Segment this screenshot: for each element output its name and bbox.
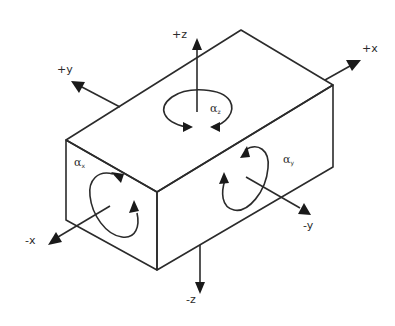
rotation-alpha-x (90, 172, 139, 237)
axis-pos-x (325, 60, 361, 80)
axis-neg-y (246, 177, 311, 215)
arrowhead-icon (298, 203, 311, 215)
arrowhead-icon (48, 232, 62, 245)
axis-pos-y (71, 81, 120, 107)
rotation-arrow-icon (111, 172, 124, 183)
axis-neg-z (195, 245, 205, 294)
label-pos-z: +z (172, 28, 187, 41)
box-right-face (157, 85, 333, 270)
label-alpha-y: αy (283, 153, 294, 167)
label-pos-y: +y (57, 63, 73, 76)
rotation-arrow-icon (219, 172, 229, 184)
box (66, 30, 333, 270)
label-neg-z: -z (186, 293, 196, 306)
rotation-alpha-y (219, 146, 268, 210)
box-top-face (66, 30, 333, 192)
label-alpha-z: αz (210, 102, 221, 115)
rotation-arrow-icon (210, 122, 220, 132)
rotation-arrow-icon (129, 200, 139, 213)
axis-diagram: +z -z +x -x +y -y αz αx (0, 0, 395, 326)
arrowhead-icon (195, 282, 205, 294)
arrowhead-icon (192, 38, 202, 50)
axis-pos-z (192, 38, 202, 112)
label-neg-x: -x (25, 234, 36, 247)
label-alpha-x: αx (74, 156, 85, 169)
arrowhead-icon (346, 60, 361, 71)
label-pos-x: +x (362, 42, 378, 55)
rotation-arrow-icon (183, 122, 193, 132)
label-neg-y: -y (303, 219, 314, 232)
